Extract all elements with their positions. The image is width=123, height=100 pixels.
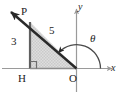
point-label-O: O — [69, 73, 77, 84]
side-length-label-PO: 5 — [49, 25, 55, 36]
point-label-P: P — [21, 6, 27, 17]
figure-canvas — [0, 0, 123, 100]
side-length-label-PH: 3 — [11, 36, 17, 47]
point-label-H: H — [18, 73, 26, 84]
y-axis-label: y — [78, 2, 82, 12]
geometry-figure: P H O 3 5 x y θ — [0, 0, 123, 100]
angle-theta-label: θ — [90, 33, 95, 44]
x-axis-label: x — [111, 63, 115, 73]
